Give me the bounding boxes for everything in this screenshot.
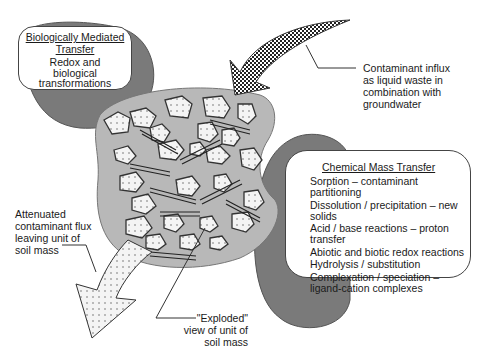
influx-label-line1: Contaminant influx — [363, 62, 450, 74]
exploded-view-label: "Exploded" view of unit of soil mass — [180, 312, 248, 348]
influx-label-line4: groundwater — [363, 98, 450, 110]
outflux-label: Attenuated contaminant flux leaving unit… — [15, 208, 91, 256]
biological-title-line2: Transfer — [19, 43, 131, 55]
biological-transfer-box: Biologically Mediated Transfer Redox and… — [18, 26, 132, 90]
chem-item-hydrolysis: Hydrolysis / substitution — [310, 259, 470, 270]
outflux-label-line2: contaminant flux — [15, 220, 91, 232]
exploded-label-line3: soil mass — [180, 336, 248, 348]
influx-label-line3: combination with — [363, 86, 450, 98]
influx-leader — [306, 45, 356, 68]
exploded-label-line2: view of unit of — [180, 324, 248, 336]
biological-title-line1: Biologically Mediated — [19, 31, 131, 43]
exploded-label-line1: "Exploded" — [180, 312, 248, 324]
biological-body-line3: transformations — [19, 78, 131, 89]
influx-label: Contaminant influx as liquid waste in co… — [363, 62, 450, 110]
chemical-title: Chemical Mass Transfer — [322, 161, 470, 173]
outflux-label-line4: soil mass — [15, 244, 91, 256]
chem-item-sorption: Sorption – contaminantpartitioning — [310, 176, 470, 198]
influx-label-line2: as liquid waste in — [363, 74, 450, 86]
influx-arrow — [230, 20, 350, 95]
outflux-label-line3: leaving unit of — [15, 232, 91, 244]
chem-item-dissolution: Dissolution / precipitation – newsolids — [310, 200, 470, 222]
chem-item-acid-base: Acid / base reactions – protontransfer — [310, 223, 470, 245]
chem-item-complexation: Complexation / speciation –ligand-cation… — [310, 272, 470, 294]
chemical-mass-transfer-box: Chemical Mass Transfer Sorption – contam… — [285, 150, 471, 278]
biological-body-line1: Redox and — [19, 57, 131, 68]
outflux-label-line1: Attenuated — [15, 208, 91, 220]
chem-item-redox: Abiotic and biotic redox reactions — [310, 247, 470, 258]
